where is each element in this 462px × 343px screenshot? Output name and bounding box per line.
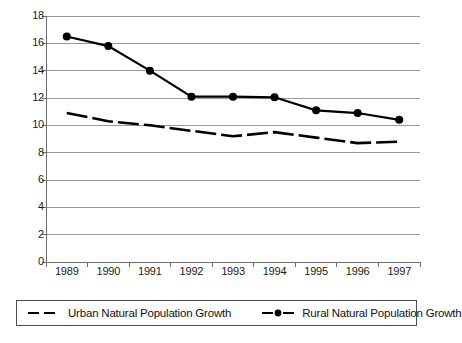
y-tick-label: 2	[4, 229, 44, 240]
y-tick-label: 18	[4, 10, 44, 21]
y-tick-label: 8	[4, 147, 44, 158]
legend-label-rural: Rural Natural Population Growth	[302, 307, 461, 319]
gridlines	[46, 16, 420, 235]
y-tick-label: 14	[4, 65, 44, 76]
series-urban-natural-population-growth	[67, 113, 399, 143]
x-tick-label: 1995	[294, 264, 338, 278]
x-tick-label: 1990	[86, 264, 130, 278]
x-tick-label: 1993	[211, 264, 255, 278]
y-tick-label: 12	[4, 92, 44, 103]
x-axis-tick-labels: 198919901991199219931994199519961997	[0, 264, 435, 288]
y-axis-tick-labels: 181614121086420	[0, 0, 44, 290]
y-tick-label: 4	[4, 201, 44, 212]
dashed-line-key-icon	[27, 307, 61, 319]
x-tick-label: 1994	[253, 264, 297, 278]
x-tick-label: 1992	[169, 264, 213, 278]
solid-line-marker-key-icon	[261, 307, 295, 319]
plot-svg	[0, 0, 435, 290]
x-tick-label: 1989	[45, 264, 89, 278]
legend-label-urban: Urban Natural Population Growth	[68, 307, 231, 319]
series-rural-natural-population-growth	[63, 33, 403, 124]
x-tick-label: 1997	[377, 264, 421, 278]
y-tick-label: 16	[4, 37, 44, 48]
x-tick-label: 1996	[336, 264, 380, 278]
legend-item-rural[interactable]: Rural Natural Population Growth	[261, 307, 461, 319]
x-tick-label: 1991	[128, 264, 172, 278]
axis-lines	[46, 16, 420, 262]
chart-legend: Urban Natural Population Growth Rural Na…	[16, 300, 417, 326]
y-tick-label: 6	[4, 174, 44, 185]
plot-area: 181614121086420	[0, 0, 435, 290]
legend-item-urban[interactable]: Urban Natural Population Growth	[27, 307, 231, 319]
y-tick-label: 10	[4, 119, 44, 130]
